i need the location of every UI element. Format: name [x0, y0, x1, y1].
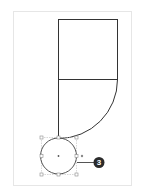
page-frame: [14, 12, 132, 186]
handle-bottom-center[interactable]: [57, 173, 60, 176]
center-point-icon: [58, 155, 60, 157]
callout-number: 3: [97, 158, 102, 167]
rotation-handle-icon[interactable]: [81, 155, 83, 157]
handle-top-center[interactable]: [57, 136, 60, 139]
handle-middle-left[interactable]: [40, 155, 43, 158]
handle-bottom-right[interactable]: [75, 173, 78, 176]
handle-bottom-left[interactable]: [40, 173, 43, 176]
handle-top-right[interactable]: [75, 136, 78, 139]
drawing-canvas: 3: [0, 0, 141, 191]
handle-top-left[interactable]: [40, 136, 43, 139]
handle-middle-right[interactable]: [75, 155, 78, 158]
